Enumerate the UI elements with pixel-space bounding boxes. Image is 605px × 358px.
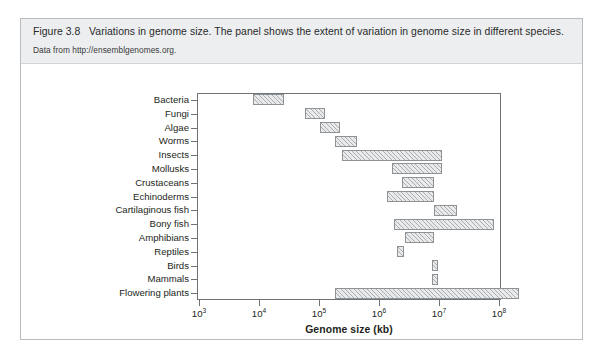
y-axis-label: Insects — [159, 150, 189, 160]
y-axis-label: Birds — [167, 261, 189, 271]
bar-crustaceans — [402, 177, 434, 188]
bar-worms — [335, 136, 357, 147]
bar-bacteria — [253, 94, 284, 105]
x-axis-tick — [319, 300, 320, 306]
y-axis-label: Mammals — [147, 274, 189, 284]
figure-source: Data from http://ensemblgenomes.org. — [33, 45, 176, 55]
y-axis-label: Reptiles — [154, 247, 189, 257]
x-axis-tick-label: 108 — [492, 308, 506, 319]
y-axis-label: Worms — [159, 136, 189, 146]
x-axis-tick — [499, 300, 500, 306]
y-axis-label: Echinoderms — [133, 192, 189, 202]
x-axis-tick — [439, 300, 440, 306]
y-axis-label: Fungi — [165, 109, 189, 119]
y-axis-label: Amphibians — [139, 233, 189, 243]
figure-card: Figure 3.8 Variations in genome size. Th… — [20, 18, 583, 340]
x-axis-tick-label: 106 — [372, 308, 386, 319]
figure-number: Figure 3.8 — [33, 26, 80, 37]
x-axis-tick — [379, 300, 380, 306]
chart-plot-area: BacteriaFungiAlgaeWormsInsectsMollusksCr… — [21, 64, 582, 341]
bar-flowering-plants — [335, 288, 519, 299]
x-axis-tick-label: 107 — [432, 308, 446, 319]
x-axis-tick-label: 105 — [312, 308, 326, 319]
figure-caption-text: Variations in genome size. The panel sho… — [89, 26, 564, 37]
y-axis-label: Flowering plants — [119, 288, 189, 298]
bar-echinoderms — [387, 191, 434, 202]
x-axis-tick-label: 103 — [192, 308, 206, 319]
y-axis-label: Crustaceans — [135, 178, 189, 188]
y-axis-label: Bacteria — [154, 95, 189, 105]
bar-insects — [342, 150, 442, 161]
y-axis-label: Cartilaginous fish — [115, 205, 189, 215]
x-axis-title: Genome size (kb) — [197, 324, 501, 335]
x-axis-tick-label: 104 — [252, 308, 266, 319]
x-axis-tick — [259, 300, 260, 306]
figure-caption: Figure 3.8 Variations in genome size. Th… — [33, 25, 572, 38]
x-axis-tick — [199, 300, 200, 306]
bar-fungi — [305, 108, 325, 119]
bar-bony-fish — [394, 219, 494, 230]
y-axis-label: Algae — [164, 123, 189, 133]
bar-birds — [432, 260, 438, 271]
bar-algae — [320, 122, 340, 133]
y-axis-label: Bony fish — [150, 219, 189, 229]
bar-reptiles — [397, 246, 404, 257]
y-axis-label: Mollusks — [152, 164, 189, 174]
bar-mammals — [432, 274, 438, 285]
chart-frame — [197, 93, 501, 300]
figure-caption-band: Figure 3.8 Variations in genome size. Th… — [21, 19, 582, 64]
bar-amphibians — [405, 232, 434, 243]
bar-mollusks — [392, 163, 442, 174]
y-axis-labels: BacteriaFungiAlgaeWormsInsectsMollusksCr… — [21, 93, 189, 300]
bar-cartilaginous-fish — [434, 205, 457, 216]
